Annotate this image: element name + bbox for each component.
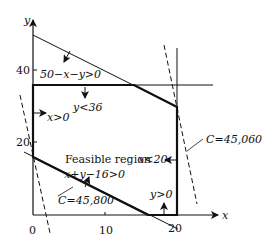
x-tick-label-10: 10 — [99, 224, 113, 237]
y-axis-label: y — [23, 14, 31, 27]
label-x-plus-y-16: x+y−16>0 — [64, 168, 125, 181]
y-tick-label-40: 40 — [16, 64, 30, 77]
label-y-36: y<36 — [72, 101, 102, 114]
label-y-0: y>0 — [149, 188, 172, 201]
x-axis-label: x — [222, 209, 229, 222]
label-c-45800: C=45,800 — [58, 194, 114, 207]
label-c-45060: C=45,060 — [206, 133, 262, 146]
x-tick-label-20: 20 — [168, 222, 182, 235]
label-x-20: x<20 — [138, 153, 167, 166]
x-tick-label-0: 0 — [29, 224, 36, 237]
label-50-x-y: 50−x−y>0 — [40, 68, 101, 81]
feasible-region-diagram: y x 0 10 20 20 40 50−x−y>0 y<36 x>0 Feas… — [0, 0, 270, 244]
leader-45060 — [187, 139, 203, 151]
label-x-0: x>0 — [47, 111, 69, 124]
arrow-50-x-y — [64, 51, 70, 62]
y-tick-label-20: 20 — [16, 136, 30, 149]
iso-cost-line-45060 — [164, 45, 197, 204]
